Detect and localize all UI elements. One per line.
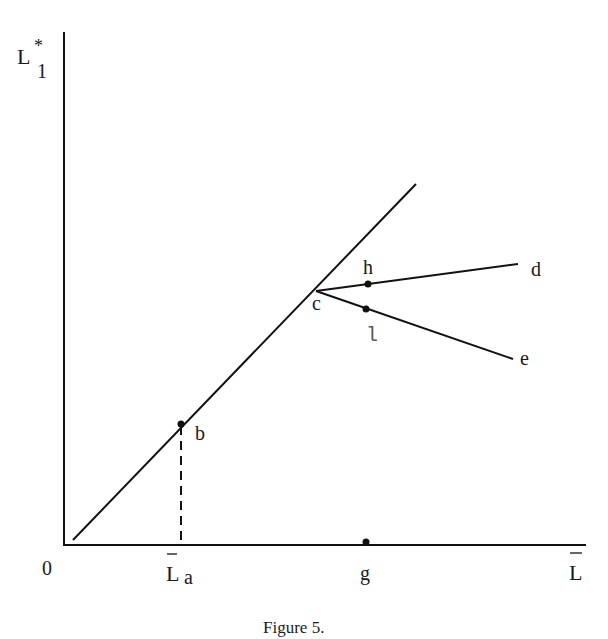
figure-caption: Figure 5. bbox=[263, 618, 324, 637]
y-axis-label-sup: * bbox=[34, 36, 43, 56]
label-l: l bbox=[366, 324, 378, 347]
diagonal-line bbox=[73, 184, 416, 540]
label-b: b bbox=[195, 422, 205, 444]
y-axis-label-sub: 1 bbox=[37, 60, 47, 82]
branch-c-d bbox=[316, 264, 518, 291]
point-b bbox=[178, 421, 185, 428]
point-h bbox=[365, 281, 372, 288]
x-tick-La-sub: a bbox=[184, 566, 193, 588]
label-d: d bbox=[531, 258, 541, 280]
label-e: e bbox=[520, 347, 529, 369]
point-g bbox=[363, 539, 370, 546]
label-h: h bbox=[363, 256, 373, 278]
point-l bbox=[363, 306, 370, 313]
x-tick-La-main: L bbox=[166, 561, 179, 586]
figure-5-diagram: L * 1 0 L a g L b c h d e l Figure 5. bbox=[0, 0, 608, 639]
x-tick-g: g bbox=[360, 562, 370, 585]
x-end-label: L bbox=[569, 560, 582, 585]
label-c: c bbox=[312, 292, 321, 314]
branch-c-e bbox=[316, 291, 513, 359]
origin-label: 0 bbox=[42, 557, 52, 579]
y-axis-label-main: L bbox=[17, 44, 30, 69]
